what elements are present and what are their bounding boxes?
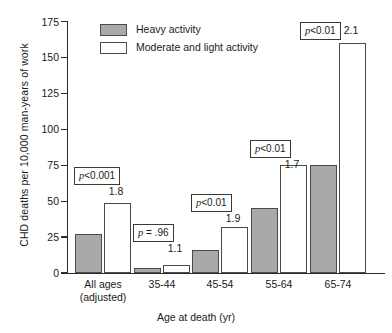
y-tick-label-25: 25 (19, 232, 59, 243)
bar-moderate-light-activity-0 (104, 203, 131, 273)
legend-label-heavy-activity: Heavy activity (136, 24, 201, 35)
legend-item-heavy-activity: Heavy activity (100, 22, 258, 37)
ratio-label-1: 1.1 (155, 243, 195, 254)
y-tick-100 (61, 129, 67, 130)
p-value-box-1: p = .96 (133, 224, 174, 242)
legend-label-moderate-light-activity: Moderate and light activity (136, 42, 258, 53)
bar-heavy-activity-0 (75, 234, 102, 273)
p-value-box-4: p<0.01 (300, 22, 341, 40)
bar-heavy-activity-4 (310, 165, 337, 273)
p-symbol-0: p (79, 170, 84, 181)
y-tick-label-0: 0 (19, 268, 59, 279)
ratio-label-2: 1.9 (213, 213, 253, 224)
legend-swatch-moderate-light-activity (100, 42, 127, 54)
x-axis-label: Age at death (yr) (0, 311, 392, 323)
y-tick-label-150: 150 (19, 52, 59, 63)
y-tick-25 (61, 236, 67, 237)
bar-heavy-activity-3 (251, 208, 278, 273)
chart-legend: Heavy activity Moderate and light activi… (100, 22, 258, 58)
bar-moderate-light-activity-4 (339, 43, 366, 273)
y-tick-175 (61, 21, 67, 22)
x-group-label-line1-4: 65-74 (292, 278, 384, 291)
legend-swatch-heavy-activity (100, 24, 127, 36)
bar-heavy-activity-1 (134, 268, 161, 273)
y-tick-0 (61, 272, 67, 273)
p-symbol-4: p (305, 25, 310, 36)
x-group-label-4: 65-74 (292, 278, 384, 291)
p-value-box-0: p<0.001 (74, 167, 120, 185)
p-value-box-2: p<0.01 (191, 194, 232, 212)
x-group-label-line2-0: (adjusted) (57, 291, 149, 304)
legend-item-moderate-light-activity: Moderate and light activity (100, 40, 258, 55)
y-tick-label-100: 100 (19, 124, 59, 135)
bar-moderate-light-activity-3 (280, 165, 307, 273)
y-tick-150 (61, 57, 67, 58)
y-tick-label-125: 125 (19, 88, 59, 99)
p-symbol-2: p (196, 197, 201, 208)
bar-moderate-light-activity-1 (163, 265, 190, 273)
y-tick-label-50: 50 (19, 196, 59, 207)
y-axis-line (67, 21, 68, 274)
y-tick-label-75: 75 (19, 160, 59, 171)
p-symbol-3: p (255, 143, 260, 154)
ratio-label-0: 1.8 (96, 186, 136, 197)
x-axis-line (67, 273, 385, 274)
y-tick-125 (61, 93, 67, 94)
ratio-label-3: 1.7 (272, 159, 312, 170)
p-value-box-3: p<0.01 (250, 140, 291, 158)
bar-heavy-activity-2 (192, 250, 219, 273)
p-symbol-1: p (138, 227, 143, 238)
y-tick-75 (61, 165, 67, 166)
bar-moderate-light-activity-2 (221, 227, 248, 273)
y-tick-50 (61, 201, 67, 202)
y-tick-label-175: 175 (19, 17, 59, 28)
chart-figure: CHD deaths per 10,000 man-years of work … (0, 0, 392, 333)
